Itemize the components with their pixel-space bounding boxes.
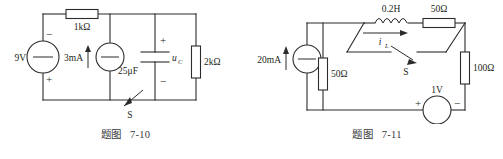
- voltage-source-1v: [423, 96, 451, 124]
- arrow-right-icon: [400, 30, 408, 36]
- capacitor-plus-sign: +: [160, 34, 166, 46]
- capacitor-25uf: [141, 52, 169, 62]
- current-arrow-icon: [85, 45, 91, 52]
- inductor-0-2h: [375, 19, 407, 24]
- current-arrow-icon: [283, 46, 289, 54]
- resistor-1k: [66, 10, 98, 19]
- capacitor-25uf-label: 25μF: [118, 66, 138, 76]
- inductor-current-subscript: L: [384, 42, 389, 49]
- resistor-1k-label: 1kΩ: [74, 22, 91, 32]
- resistor-50-middle: [319, 58, 328, 90]
- resistor-50-top-label: 50Ω: [431, 4, 448, 14]
- circuit-svg-7-10: 1kΩ 9V − + 3mA: [0, 0, 251, 124]
- switch-blade-arrow-icon: [124, 97, 132, 106]
- switch-s[interactable]: [124, 90, 143, 106]
- figure-7-10: 1kΩ 9V − + 3mA: [0, 0, 251, 159]
- voltage-source-9v: [27, 41, 59, 73]
- capacitor-minus-sign: −: [160, 75, 166, 87]
- current-source-3ma-label: 3mA: [64, 53, 83, 63]
- inductor-current-label: i: [379, 37, 382, 47]
- voltage-source-9v-label: 9V: [14, 53, 26, 63]
- switch-s-label: S: [127, 110, 132, 120]
- resistor-100-right: [461, 52, 470, 84]
- circuit-canvas-7-11: 20mA 0.2H i L 50Ω: [251, 0, 503, 124]
- current-source-20ma-label: 20mA: [257, 55, 281, 65]
- resistor-2k: [192, 46, 201, 78]
- switch-s-label: S: [403, 67, 408, 77]
- switch-s[interactable]: [391, 46, 417, 65]
- figure-page: 1kΩ 9V − + 3mA: [0, 0, 503, 159]
- resistor-50-middle-label: 50Ω: [331, 69, 348, 79]
- figure-caption-7-10: 题图 7-10: [0, 126, 251, 141]
- figure-caption-7-11: 题图 7-11: [251, 126, 503, 141]
- inductor-0-2h-label: 0.2H: [382, 4, 401, 14]
- capacitor-voltage-label: u: [172, 53, 177, 63]
- voltage-source-1v-plus: +: [415, 97, 421, 109]
- voltage-source-1v-minus: −: [454, 97, 460, 109]
- resistor-50-top: [423, 19, 455, 28]
- circuit-canvas-7-10: 1kΩ 9V − + 3mA: [0, 0, 251, 124]
- resistor-2k-label: 2kΩ: [204, 57, 221, 67]
- voltage-source-1v-label: 1V: [431, 85, 443, 95]
- current-source-20ma: [283, 45, 321, 73]
- inductor-current-arrow: [363, 30, 408, 36]
- resistor-100-right-label: 100Ω: [473, 63, 494, 73]
- voltage-source-9v-plus: +: [46, 73, 52, 85]
- voltage-source-9v-minus: −: [46, 28, 52, 40]
- circuit-svg-7-11: 20mA 0.2H i L 50Ω: [251, 0, 503, 124]
- capacitor-voltage-subscript: C: [178, 58, 183, 65]
- figure-7-11: 20mA 0.2H i L 50Ω: [251, 0, 503, 159]
